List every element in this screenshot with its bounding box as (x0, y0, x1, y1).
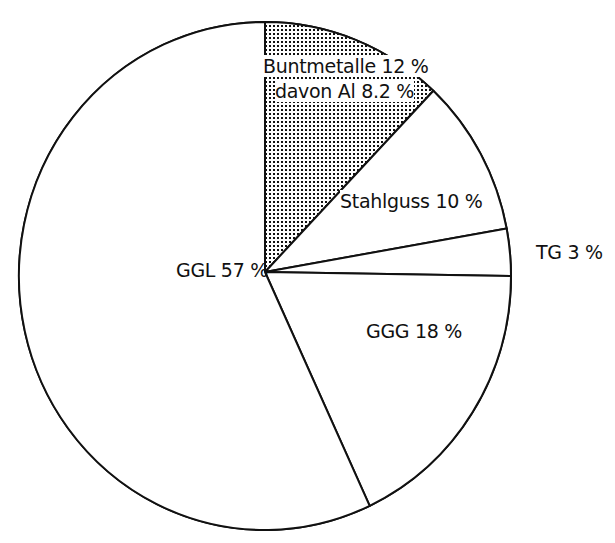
label-davon-al: davon Al 8.2 % (275, 80, 414, 102)
label-stahlguss: Stahlguss 10 % (340, 190, 482, 212)
label-tg: TG 3 % (536, 241, 603, 263)
label-buntmetalle: Buntmetalle 12 % (263, 55, 429, 77)
label-ggg: GGG 18 % (366, 320, 462, 342)
label-ggl: GGL 57 % (176, 259, 268, 281)
